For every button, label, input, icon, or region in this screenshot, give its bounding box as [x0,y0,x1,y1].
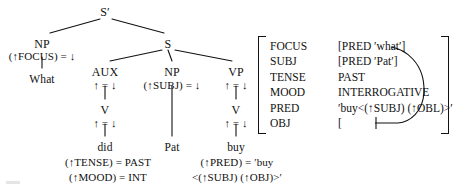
tree-terminal-word-w-pat: Pat [165,141,180,153]
tree-node-v-main: V [232,104,241,116]
avm-attribute-obj: OBJ [270,116,338,131]
tree-annotation-ann-v-aux: ↑ = ↓ [93,117,116,129]
avm-value-pred: ′buy<(↑SUBJ) (↑OBL)>′ [338,101,453,116]
avm-value-mood: INTERROGATIVE [338,85,429,100]
avm-row: TENSEPAST [270,70,453,85]
tree-annotation-ann-v-main: ↑ = ↓ [224,117,247,129]
tree-lexical-schema-lex-did-1: (↑TENSE) = PAST [65,156,151,168]
tree-terminal-word-w-buy: buy [227,141,245,153]
avm-left-bracket [258,36,266,134]
tree-edge-e-sbar-np [50,19,100,33]
tree-lexical-schema-lex-did-2: (↑MOOD) = INT [69,171,147,183]
tree-node-v-aux: V [101,104,110,116]
avm-row-list: FOCUS[PRED ′what′]SUBJ[PRED ′Pat′]TENSEP… [270,39,453,131]
avm-row: FOCUS[PRED ′what′] [270,39,453,54]
avm-attribute-mood: MOOD [270,85,338,100]
tree-lexical-schema-lex-buy-2: <(↑SUBJ) (↑OBJ)>′ [192,171,282,183]
tree-node-s: S [165,38,172,50]
tree-edge-e-s-aux [110,50,162,61]
avm-value-obj: [ [338,116,342,131]
avm-value-tense: PAST [338,70,365,85]
avm-row: MOODINTERROGATIVE [270,85,453,100]
tree-node-np-focus: NP [34,38,50,50]
tree-node-vp: VP [228,66,244,78]
avm-row: PRED′buy<(↑SUBJ) (↑OBL)>′ [270,101,453,116]
figure-canvas: S′NPSAUXNPVPVV(↑FOCUS) = ↓↑ = ↓(↑SUBJ) =… [0,0,457,188]
tree-edge-e-s-vp [175,50,232,61]
tree-node-aux: AUX [92,66,118,78]
tree-annotation-ann-vp: ↑ = ↓ [224,79,247,91]
tree-terminal-word-w-did: did [98,141,113,153]
tree-node-np-subj: NP [164,66,180,78]
tree-annotation-ann-aux: ↑ = ↓ [93,79,116,91]
tree-annotation-ann-subj: (↑SUBJ) = ↓ [144,79,201,91]
scan-artifact [6,181,20,184]
avm-attribute-tense: TENSE [270,70,338,85]
tree-lexical-schema-lex-buy-1: (↑PRED) = ′buy [201,156,274,168]
avm-attribute-focus: FOCUS [270,39,338,54]
avm-row: SUBJ[PRED ′Pat′] [270,54,453,69]
avm-value-focus: [PRED ′what′] [338,39,405,54]
tree-terminal-word-w-what: What [29,73,54,85]
avm-value-subj: [PRED ′Pat′] [338,54,398,69]
tree-node-sbar: S′ [100,6,110,18]
tree-edge-e-sbar-s [112,19,164,33]
tree-edge-e-s-np [168,50,172,61]
avm-row: OBJ[ [270,116,453,131]
avm-attribute-subj: SUBJ [270,54,338,69]
tree-annotation-ann-focus: (↑FOCUS) = ↓ [9,50,76,62]
f-structure-avm: FOCUS[PRED ′what′]SUBJ[PRED ′Pat′]TENSEP… [258,36,448,132]
avm-attribute-pred: PRED [270,101,338,116]
